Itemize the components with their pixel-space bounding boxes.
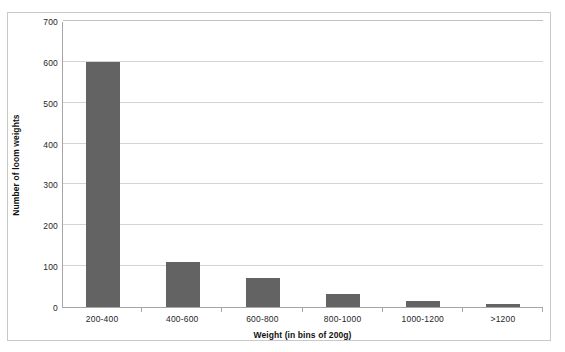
bar-slot (463, 22, 543, 307)
y-axis-tick-label: 200 (24, 221, 58, 231)
bar-slot (63, 22, 143, 307)
x-axis-tick-mark (222, 308, 302, 312)
y-axis-tick-label: 700 (24, 17, 58, 27)
x-axis-tick-label-3: 800-1000 (303, 314, 383, 328)
bar-slot (303, 22, 383, 307)
y-axis-tick-label: 600 (24, 58, 58, 68)
bar[interactable] (486, 304, 520, 307)
bar-series (63, 22, 543, 307)
x-axis-tick-label-5: >1200 (463, 314, 543, 328)
x-axis-tick-mark (383, 308, 463, 312)
x-axis-tick-label-1: 400-600 (142, 314, 222, 328)
x-axis-tick-label-0: 200-400 (62, 314, 142, 328)
x-axis-tick-mark (62, 308, 142, 312)
y-axis-title-text: Number of loom weights (11, 114, 21, 215)
bar[interactable] (326, 294, 360, 307)
x-axis-tick-label-4: 1000-1200 (383, 314, 463, 328)
x-axis-tick-mark (303, 308, 383, 312)
bar-slot (223, 22, 303, 307)
x-axis-tick-mark (142, 308, 222, 312)
plot-area (62, 22, 543, 308)
bar[interactable] (406, 301, 440, 307)
bar[interactable] (246, 278, 280, 307)
chart-title (0, 0, 565, 1)
y-axis-tick-label: 500 (24, 99, 58, 109)
y-axis-tick-label: 100 (24, 262, 58, 272)
y-axis-tick-label: 0 (24, 303, 58, 313)
bar-slot (383, 22, 463, 307)
bar-slot (143, 22, 223, 307)
x-axis-title: Weight (in bins of 200g) (62, 330, 543, 340)
y-axis-tick-label: 400 (24, 140, 58, 150)
x-axis-tick-marks (62, 308, 543, 312)
y-axis-tick-labels: 0100200300400500600700 (24, 0, 58, 352)
bar[interactable] (166, 262, 200, 307)
bar[interactable] (86, 62, 120, 307)
x-axis-tick-mark (463, 308, 543, 312)
gridline (63, 20, 543, 21)
x-axis-tick-labels: 200-400400-600600-800800-10001000-1200>1… (62, 314, 543, 328)
y-axis-tick-label: 300 (24, 180, 58, 190)
y-axis-title: Number of loom weights (9, 50, 23, 280)
x-axis-tick-label-2: 600-800 (222, 314, 302, 328)
